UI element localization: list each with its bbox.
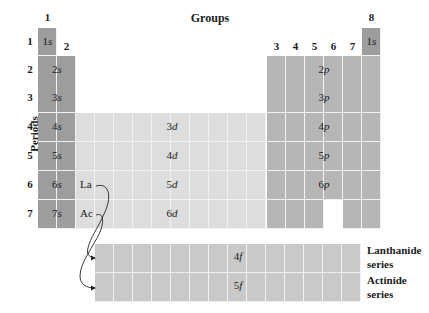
la-ac-arrows-icon <box>0 0 429 313</box>
